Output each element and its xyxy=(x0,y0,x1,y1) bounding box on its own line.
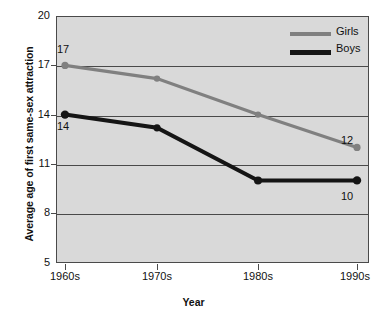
data-label-girls-1960s: 17 xyxy=(57,43,69,55)
data-label-boys-1990s: 10 xyxy=(341,190,353,202)
series-line-girls xyxy=(65,65,357,147)
line-chart: Average age of first same-sex attraction… xyxy=(0,0,387,323)
legend-swatch-boys xyxy=(290,50,331,55)
y-axis-title: Average age of first same-sex attraction xyxy=(23,19,35,269)
data-point-boys-1990s xyxy=(353,176,361,184)
data-label-boys-1960s: 14 xyxy=(57,120,69,132)
data-point-girls-1970s xyxy=(154,75,160,81)
data-point-boys-1970s xyxy=(153,124,160,131)
data-point-girls-1990s xyxy=(353,144,360,151)
data-point-girls-1980s xyxy=(255,111,261,117)
legend-label-girls: Girls xyxy=(336,25,359,37)
x-tick-label-1990s: 1990s xyxy=(320,270,387,282)
x-tick-label-1960s: 1960s xyxy=(30,270,100,282)
legend-swatch-girls xyxy=(290,32,331,36)
y-tick-label-17: 17 xyxy=(16,58,50,70)
x-tick-label-1980s: 1980s xyxy=(223,270,293,282)
x-axis-title: Year xyxy=(0,296,387,308)
y-tick-label-14: 14 xyxy=(16,108,50,120)
data-point-girls-1960s xyxy=(61,62,68,69)
legend-label-boys: Boys xyxy=(336,42,360,54)
data-point-boys-1960s xyxy=(61,110,69,118)
series-line-boys xyxy=(65,115,357,181)
y-tick-label-5: 5 xyxy=(16,256,50,268)
data-label-girls-1990s: 12 xyxy=(341,134,353,146)
y-tick-label-20: 20 xyxy=(16,9,50,21)
x-tick-label-1970s: 1970s xyxy=(122,270,192,282)
data-point-boys-1980s xyxy=(254,176,262,184)
y-tick-label-11: 11 xyxy=(16,157,50,169)
y-tick-label-8: 8 xyxy=(16,206,50,218)
